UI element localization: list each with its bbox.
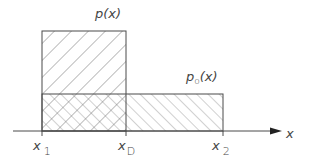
- p-func-label: p(x): [95, 7, 121, 20]
- x2-base: x: [212, 138, 220, 153]
- x-axis-arrowhead-icon: [270, 128, 282, 135]
- p-rect-hatch: [42, 31, 126, 131]
- xD-sub: D: [127, 145, 135, 158]
- xD-label: xD: [118, 139, 135, 152]
- x1-base: x: [33, 138, 41, 153]
- p0-func-rest: (x): [200, 69, 218, 84]
- axis-var-text: x: [286, 126, 294, 141]
- xD-base: x: [118, 138, 126, 153]
- x2-label: x2: [212, 139, 230, 152]
- x1-label: x1: [33, 139, 51, 152]
- p0-func-sub: o: [194, 76, 200, 86]
- x2-sub: 2: [223, 145, 230, 158]
- x1-sub: 1: [44, 145, 51, 158]
- p-func-text: p(x): [95, 6, 121, 21]
- axis-var-label: x: [286, 127, 294, 140]
- p0-func-label: po(x): [186, 70, 218, 83]
